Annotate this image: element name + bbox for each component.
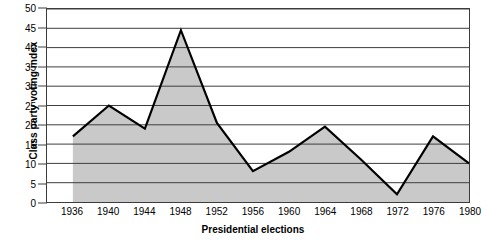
y-tick-label: 35: [14, 61, 36, 72]
x-tick-label: 1960: [272, 206, 306, 217]
x-tick-label: 1956: [236, 206, 270, 217]
x-tick-label: 1980: [453, 206, 486, 217]
y-tick-label: 40: [14, 42, 36, 53]
y-tick-label: 0: [14, 198, 36, 209]
y-tick-label: 30: [14, 81, 36, 92]
x-tick-label: 1964: [308, 206, 342, 217]
x-axis-tick-labels: 1936194019441948195219561960196419681972…: [46, 206, 470, 220]
x-tick-label: 1948: [164, 206, 198, 217]
x-tick-label: 1972: [381, 206, 415, 217]
x-tick-label: 1952: [200, 206, 234, 217]
x-tick-label: 1976: [417, 206, 451, 217]
y-tick-label: 15: [14, 139, 36, 150]
y-tick-label: 50: [14, 3, 36, 14]
y-axis-tick-labels: 05101520253035404550: [10, 8, 36, 203]
y-tick-label: 10: [14, 159, 36, 170]
y-tick-label: 45: [14, 22, 36, 33]
area-fill: [73, 30, 469, 202]
x-tick-label: 1968: [344, 206, 378, 217]
x-tick-label: 1940: [91, 206, 125, 217]
x-axis-title: Presidential elections: [40, 224, 466, 235]
y-tick-label: 20: [14, 120, 36, 131]
y-tick-label: 5: [14, 178, 36, 189]
x-tick-label: 1936: [55, 206, 89, 217]
y-tick-label: 25: [14, 100, 36, 111]
area-chart-svg: [47, 9, 469, 202]
plot-area: [46, 8, 470, 203]
x-tick-label: 1944: [127, 206, 161, 217]
